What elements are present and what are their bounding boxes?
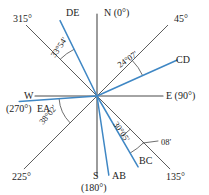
label-survey-AB: AB xyxy=(112,170,126,181)
label-survey-BC: BC xyxy=(139,155,153,166)
ang-CD-arc xyxy=(132,61,142,76)
label-west: W xyxy=(24,90,34,101)
ang-EA-arc xyxy=(59,99,70,123)
survey-line-DE xyxy=(60,21,97,96)
annotation-ang-DE: 33°54′ xyxy=(48,35,69,59)
label-survey-DE: DE xyxy=(66,7,79,18)
figure-canvas: N (0°)E (90°)S(180°)W(270°)315°45°135°22… xyxy=(0,0,209,195)
label-deg225: 225° xyxy=(12,171,31,182)
survey-line-AB xyxy=(97,96,109,175)
label-south_value: (180°) xyxy=(81,182,107,194)
label-east: E (90°) xyxy=(166,90,195,102)
compass-bearing-diagram: N (0°)E (90°)S(180°)W(270°)315°45°135°22… xyxy=(0,0,209,195)
leader-08 xyxy=(143,141,158,143)
annotation-ang-CD: 24°07′ xyxy=(115,49,139,70)
label-deg135: 135° xyxy=(166,171,185,182)
survey-lines xyxy=(19,21,177,176)
label-deg45: 45° xyxy=(174,13,188,24)
ang-extra-arc xyxy=(130,143,144,153)
leader-lines xyxy=(143,141,158,143)
annotation-ang-extra: 08′ xyxy=(161,137,172,147)
ang-DE-arc xyxy=(60,49,74,59)
label-west_value: (270°) xyxy=(6,103,32,115)
label-survey-CD: CD xyxy=(176,54,190,65)
label-deg315: 315° xyxy=(13,13,32,24)
annotation-ang-BC: 30°05′ xyxy=(111,120,132,144)
label-south: S xyxy=(93,170,99,181)
label-north: N (0°) xyxy=(104,7,129,19)
